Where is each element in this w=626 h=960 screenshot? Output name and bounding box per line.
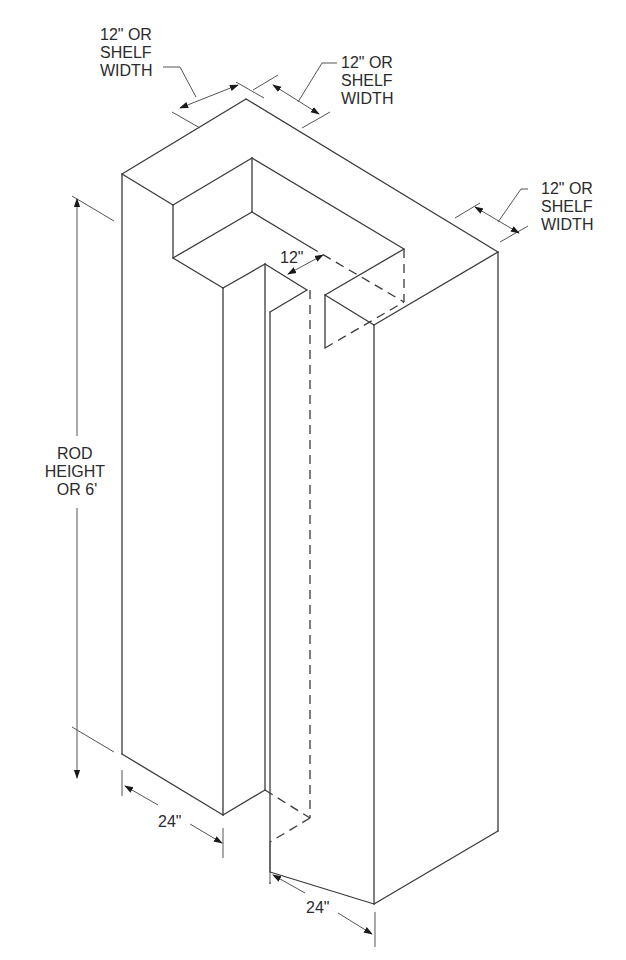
dimension-rod-height: ROD HEIGHT OR 6' bbox=[45, 196, 114, 778]
dimension-right-width: 12" OR SHELF WIDTH bbox=[455, 180, 597, 242]
dimension-right-depth: 24" bbox=[270, 842, 375, 947]
label-left-depth: 24" bbox=[158, 813, 181, 830]
hidden-lines bbox=[265, 247, 404, 842]
dimension-inner-gap: 12" bbox=[280, 249, 323, 274]
label-inner-gap: 12" bbox=[280, 249, 303, 266]
label-right-depth: 24" bbox=[306, 899, 329, 916]
closet-isometric-diagram: 12" OR SHELF WIDTH 12" OR SHELF WIDTH 12… bbox=[0, 0, 626, 960]
label-right-width: 12" OR SHELF WIDTH bbox=[541, 180, 597, 233]
label-top-right-width: 12" OR SHELF WIDTH bbox=[341, 54, 397, 107]
label-top-left-width: 12" OR SHELF WIDTH bbox=[100, 26, 156, 79]
dimension-top-left-width: 12" OR SHELF WIDTH bbox=[100, 26, 264, 128]
dimension-left-depth: 24" bbox=[122, 770, 223, 858]
label-rod-height: ROD HEIGHT OR 6' bbox=[45, 445, 110, 498]
